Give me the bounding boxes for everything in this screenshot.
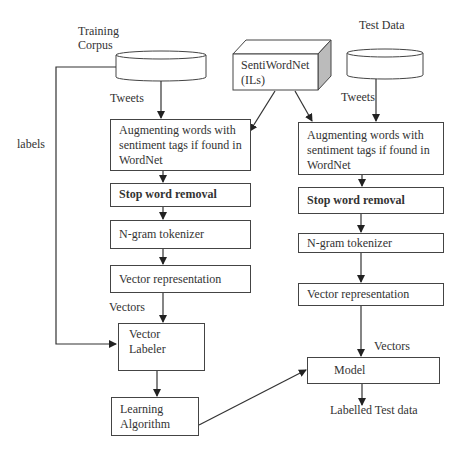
model-box: Model xyxy=(307,357,440,384)
training-corpus-line2: Corpus xyxy=(78,38,119,52)
vector-labeler-box: Vector Labeler xyxy=(118,323,205,371)
vectors-right-label: Vectors xyxy=(374,339,410,353)
vectors-left-label: Vectors xyxy=(109,300,145,314)
training-corpus-cylinder-icon xyxy=(116,51,206,81)
sentiwordnet-line2: (ILs) xyxy=(241,73,309,88)
tweets-left-label: Tweets xyxy=(110,91,144,105)
right-augment-line3: WordNet xyxy=(307,158,435,173)
right-augment-box: Augmenting words with sentiment tags if … xyxy=(298,122,444,175)
training-corpus-label: Training Corpus xyxy=(78,24,119,52)
labels-label: labels xyxy=(17,137,45,151)
labelled-test-data-label: Labelled Test data xyxy=(330,403,418,417)
left-augment-line1: Augmenting words with xyxy=(119,123,242,138)
right-vector-repr-box: Vector representation xyxy=(298,283,444,306)
learning-algorithm-box: Learning Algorithm xyxy=(111,397,199,436)
right-stopword-box: Stop word removal xyxy=(298,187,444,214)
left-augment-box: Augmenting words with sentiment tags if … xyxy=(110,119,251,171)
left-vector-repr-box: Vector representation xyxy=(110,265,251,293)
left-ngram-box: N-gram tokenizer xyxy=(110,220,251,249)
right-ngram-box: N-gram tokenizer xyxy=(298,233,444,253)
training-corpus-line1: Training xyxy=(78,24,119,38)
test-data-label: Test Data xyxy=(359,18,404,32)
right-augment-line1: Augmenting words with xyxy=(307,128,435,143)
sentiwordnet-label: SentiWordNet (ILs) xyxy=(241,58,309,88)
test-data-cylinder-icon xyxy=(347,49,423,79)
sentiwordnet-line1: SentiWordNet xyxy=(241,58,309,73)
learning-algorithm-line1: Learning xyxy=(120,402,190,417)
learning-algorithm-line2: Algorithm xyxy=(120,417,190,432)
left-stopword-box: Stop word removal xyxy=(110,183,251,207)
left-augment-line3: WordNet xyxy=(119,153,242,168)
left-augment-line2: sentiment tags if found in xyxy=(119,138,242,153)
right-augment-line2: sentiment tags if found in xyxy=(307,143,435,158)
tweets-right-label: Tweets xyxy=(341,90,375,104)
